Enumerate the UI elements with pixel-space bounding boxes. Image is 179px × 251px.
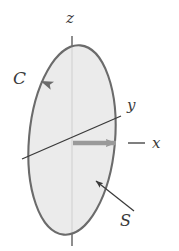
- curve-label: C: [13, 70, 26, 87]
- z-axis-label: z: [66, 11, 74, 26]
- figure-container: z y x C S: [0, 0, 179, 251]
- surface-label: S: [120, 213, 131, 229]
- vector-diagram: [0, 0, 179, 251]
- x-axis-label: x: [152, 136, 160, 151]
- y-axis-label: y: [127, 98, 135, 113]
- surface-disk: [21, 42, 123, 239]
